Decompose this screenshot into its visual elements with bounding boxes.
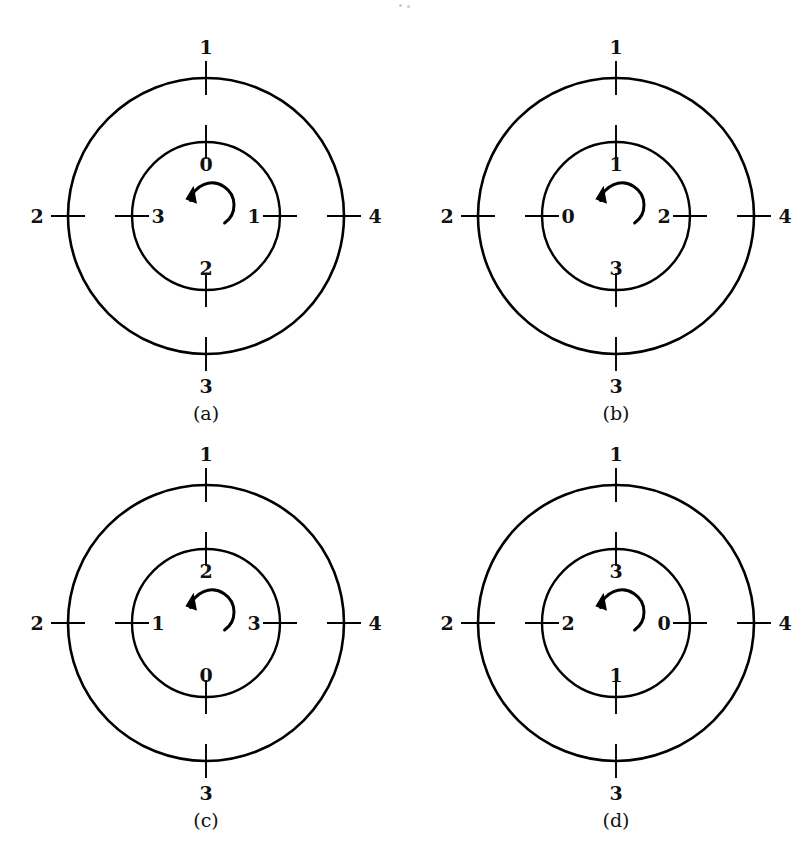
- rotation-arrow-arc-b: [600, 183, 644, 223]
- outer-circle-c: [68, 485, 344, 761]
- outer-label-left-d: 2: [440, 614, 453, 633]
- outer-label-right-b: 4: [778, 207, 791, 226]
- outer-label-bottom-d: 3: [609, 784, 622, 803]
- rotation-arrow-arc-c: [190, 590, 234, 630]
- inner-label-bottom-b: 3: [609, 259, 622, 278]
- outer-label-bottom-c: 3: [199, 784, 212, 803]
- diagram-caption-c: (c): [193, 811, 218, 830]
- rotation-arrow-arc-a: [190, 183, 234, 223]
- outer-label-bottom-b: 3: [609, 377, 622, 396]
- ring-diagram-graphics-a: [11, 6, 401, 426]
- outer-circle-d: [478, 485, 754, 761]
- ring-diagram-b: 12431023(b): [421, 6, 803, 426]
- inner-label-top-b: 1: [609, 155, 622, 174]
- diagram-caption-d: (d): [603, 811, 630, 830]
- outer-label-left-b: 2: [440, 207, 453, 226]
- inner-label-top-d: 3: [609, 562, 622, 581]
- outer-label-top-a: 1: [199, 38, 212, 57]
- scan-artifact: [407, 5, 410, 8]
- ring-diagram-graphics-d: [421, 413, 803, 833]
- outer-label-left-c: 2: [30, 614, 43, 633]
- inner-label-left-a: 3: [151, 207, 164, 226]
- outer-label-right-c: 4: [368, 614, 381, 633]
- inner-label-bottom-a: 2: [199, 259, 212, 278]
- inner-label-left-b: 0: [561, 207, 574, 226]
- inner-label-left-c: 1: [151, 614, 164, 633]
- inner-label-right-d: 0: [657, 614, 670, 633]
- outer-label-left-a: 2: [30, 207, 43, 226]
- inner-label-bottom-c: 0: [199, 666, 212, 685]
- inner-label-right-a: 1: [247, 207, 260, 226]
- ring-diagram-c: 12432130(c): [11, 413, 401, 833]
- outer-label-right-a: 4: [368, 207, 381, 226]
- outer-circle-b: [478, 78, 754, 354]
- outer-label-top-d: 1: [609, 445, 622, 464]
- inner-label-top-a: 0: [199, 155, 212, 174]
- ring-diagram-a: 12430312(a): [11, 6, 401, 426]
- inner-label-right-b: 2: [657, 207, 670, 226]
- rotation-arrow-arc-d: [600, 590, 644, 630]
- outer-circle-a: [68, 78, 344, 354]
- ring-diagram-graphics-c: [11, 413, 401, 833]
- inner-label-right-c: 3: [247, 614, 260, 633]
- figure-sheet: 12430312(a) 12431023(b) 12432130(c) 1243…: [0, 0, 803, 852]
- inner-label-top-c: 2: [199, 562, 212, 581]
- ring-diagram-d: 12433201(d): [421, 413, 803, 833]
- outer-label-top-c: 1: [199, 445, 212, 464]
- inner-label-left-d: 2: [561, 614, 574, 633]
- ring-diagram-graphics-b: [421, 6, 803, 426]
- outer-label-right-d: 4: [778, 614, 791, 633]
- outer-label-bottom-a: 3: [199, 377, 212, 396]
- outer-label-top-b: 1: [609, 38, 622, 57]
- inner-label-bottom-d: 1: [609, 666, 622, 685]
